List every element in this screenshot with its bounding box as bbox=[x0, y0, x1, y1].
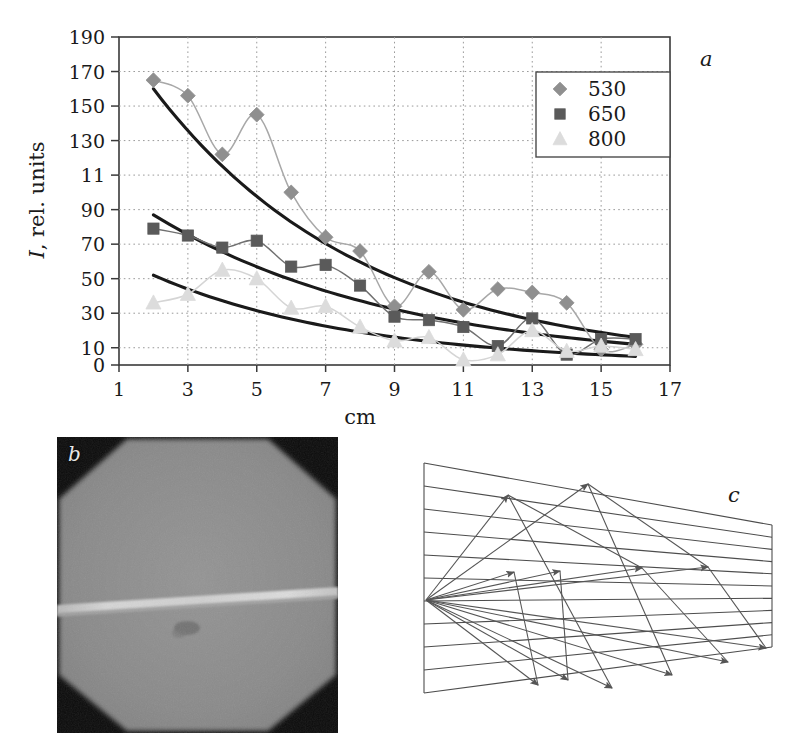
y-axis-title: I, rel. units bbox=[25, 141, 49, 259]
panel-a-chart: 0103050709011130150170190 1357911131517 … bbox=[0, 0, 804, 430]
x-tick-label: 13 bbox=[520, 378, 544, 400]
y-tick-label: 30 bbox=[81, 302, 105, 324]
layer-line bbox=[424, 598, 772, 601]
ray-10 bbox=[426, 600, 538, 685]
x-tick-label: 9 bbox=[388, 378, 400, 400]
x-tick-label: 5 bbox=[251, 378, 263, 400]
panel-letter-b: b bbox=[68, 442, 81, 466]
panel-b-photograph: b bbox=[57, 437, 338, 733]
data-point-square bbox=[354, 280, 365, 291]
data-point-square bbox=[148, 223, 159, 234]
layer-line bbox=[424, 578, 772, 586]
y-tick-label: 10 bbox=[81, 337, 105, 359]
y-tick-label: 90 bbox=[81, 199, 105, 221]
y-tick-label: 130 bbox=[69, 130, 105, 152]
figure-root: 0103050709011130150170190 1357911131517 … bbox=[0, 0, 804, 749]
data-point-square bbox=[320, 259, 331, 270]
y-tick-label: 150 bbox=[69, 95, 105, 117]
ray-0 bbox=[426, 572, 514, 600]
ray-8 bbox=[426, 600, 728, 662]
legend-label-800: 800 bbox=[588, 127, 626, 151]
y-tick-label: 170 bbox=[69, 61, 105, 83]
legend-label-530: 530 bbox=[588, 77, 626, 101]
legend-items: 530650800 bbox=[553, 77, 626, 151]
y-tick-label: 70 bbox=[81, 233, 105, 255]
x-tick-label: 17 bbox=[658, 378, 682, 400]
x-tick-label: 1 bbox=[113, 378, 125, 400]
y-tick-label: 50 bbox=[81, 268, 105, 290]
panel-b-image bbox=[57, 437, 338, 733]
x-tick-label: 7 bbox=[320, 378, 332, 400]
legend-label-650: 650 bbox=[588, 102, 626, 126]
y-axis-ticks: 0103050709011130150170190 bbox=[69, 26, 119, 376]
panel-letter-c: c bbox=[728, 483, 740, 507]
chart-legend: 530650800 bbox=[536, 72, 670, 157]
panel-c-diagram: c bbox=[410, 440, 800, 730]
panel-c-svg: c bbox=[410, 440, 800, 730]
data-point-square bbox=[182, 230, 193, 241]
data-point-square bbox=[389, 311, 400, 322]
x-tick-label: 3 bbox=[182, 378, 194, 400]
x-tick-label: 11 bbox=[451, 378, 475, 400]
x-tick-label: 15 bbox=[589, 378, 613, 400]
data-point-square bbox=[458, 321, 469, 332]
ray-7 bbox=[426, 600, 672, 675]
data-point-square bbox=[423, 315, 434, 326]
y-tick-label: 11 bbox=[81, 164, 105, 186]
slab-layer-lines bbox=[424, 486, 772, 670]
photo-grain bbox=[57, 437, 338, 733]
y-tick-label: 190 bbox=[69, 26, 105, 48]
ray-leg-5 bbox=[708, 567, 766, 648]
layer-line bbox=[424, 610, 772, 624]
data-point-square bbox=[217, 242, 228, 253]
x-axis-ticks: 1357911131517 bbox=[113, 365, 682, 400]
chart-svg: 0103050709011130150170190 1357911131517 … bbox=[0, 0, 804, 430]
x-axis-title: cm bbox=[344, 405, 376, 429]
data-point-square bbox=[286, 261, 297, 272]
data-point-square bbox=[555, 109, 565, 119]
y-axis-title-rest: , rel. units bbox=[25, 141, 49, 250]
y-axis-title-group: I, rel. units bbox=[25, 141, 49, 259]
slab-outline bbox=[424, 463, 772, 693]
data-point-square bbox=[251, 235, 262, 246]
ray-2 bbox=[426, 568, 642, 600]
panel-letter-a: a bbox=[700, 47, 713, 71]
